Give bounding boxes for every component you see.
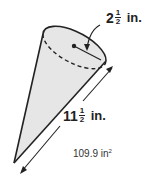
- slant-unit: in.: [91, 108, 106, 123]
- surface-area-value: 109.9 in: [73, 148, 109, 159]
- radius-whole: 2: [106, 10, 114, 26]
- arrowhead-down-icon: [20, 166, 27, 174]
- surface-area-label: 109.9 in2: [73, 148, 112, 159]
- arrowhead-up-icon: [106, 66, 113, 73]
- surface-area-exponent: 2: [109, 148, 112, 154]
- radius-label: 212 in.: [106, 8, 142, 26]
- slant-whole: 11: [63, 108, 78, 124]
- radius-fraction: 12: [115, 9, 121, 26]
- slant-fraction: 12: [79, 107, 85, 124]
- radius-denominator: 2: [115, 18, 121, 26]
- slant-height-label: 1112 in.: [63, 106, 106, 124]
- slant-denominator: 2: [79, 116, 85, 124]
- radius-unit: in.: [127, 10, 142, 25]
